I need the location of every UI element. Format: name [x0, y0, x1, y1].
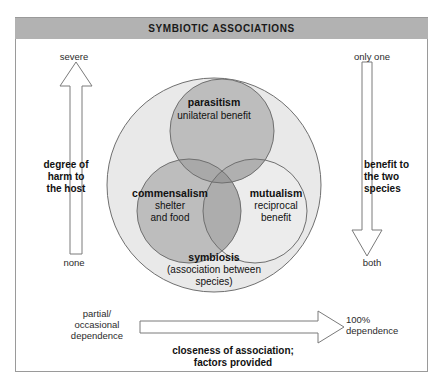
right-axis-bottom-label: both: [330, 257, 414, 268]
left-axis-top-label: severe: [36, 51, 112, 62]
symbiotic-associations-figure: SYMBIOTIC ASSOCIATIONS: [0, 0, 444, 390]
mutualism-description: reciprocal benefit: [231, 200, 321, 224]
bottom-axis-start-label: partial/ occasional dependence: [58, 308, 136, 342]
left-axis-bottom-label: none: [36, 257, 112, 268]
symbiosis-description: (association between species): [144, 264, 284, 288]
commensalism-label: commensalism: [115, 187, 225, 199]
header-bar: SYMBIOTIC ASSOCIATIONS: [15, 18, 428, 39]
parasitism-description: unilateral benefit: [149, 110, 279, 122]
page-title: SYMBIOTIC ASSOCIATIONS: [148, 23, 295, 34]
left-axis-title: degree of harm to the host: [20, 159, 112, 194]
right-axis-title: benefit to the two species: [364, 159, 440, 194]
commensalism-description: shelter and food: [120, 200, 220, 224]
mutualism-label: mutualism: [231, 187, 321, 199]
bottom-axis-title: closeness of association; factors provid…: [128, 345, 338, 369]
right-axis-top-label: only one: [330, 51, 414, 62]
parasitism-label: parasitism: [159, 96, 269, 108]
bottom-axis-end-label: 100% dependence: [346, 314, 432, 336]
symbiosis-label: symbiosis: [164, 251, 264, 263]
